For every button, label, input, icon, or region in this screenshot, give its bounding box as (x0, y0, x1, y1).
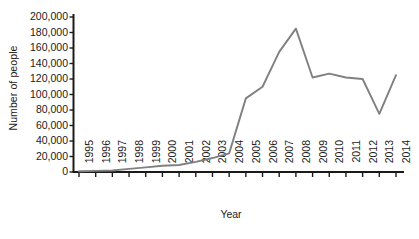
chart-figure: Number of people 200,000180,000160,00014… (0, 0, 419, 239)
plot-area (0, 0, 419, 239)
data-series-line (79, 29, 396, 172)
axis-lines (73, 14, 405, 172)
